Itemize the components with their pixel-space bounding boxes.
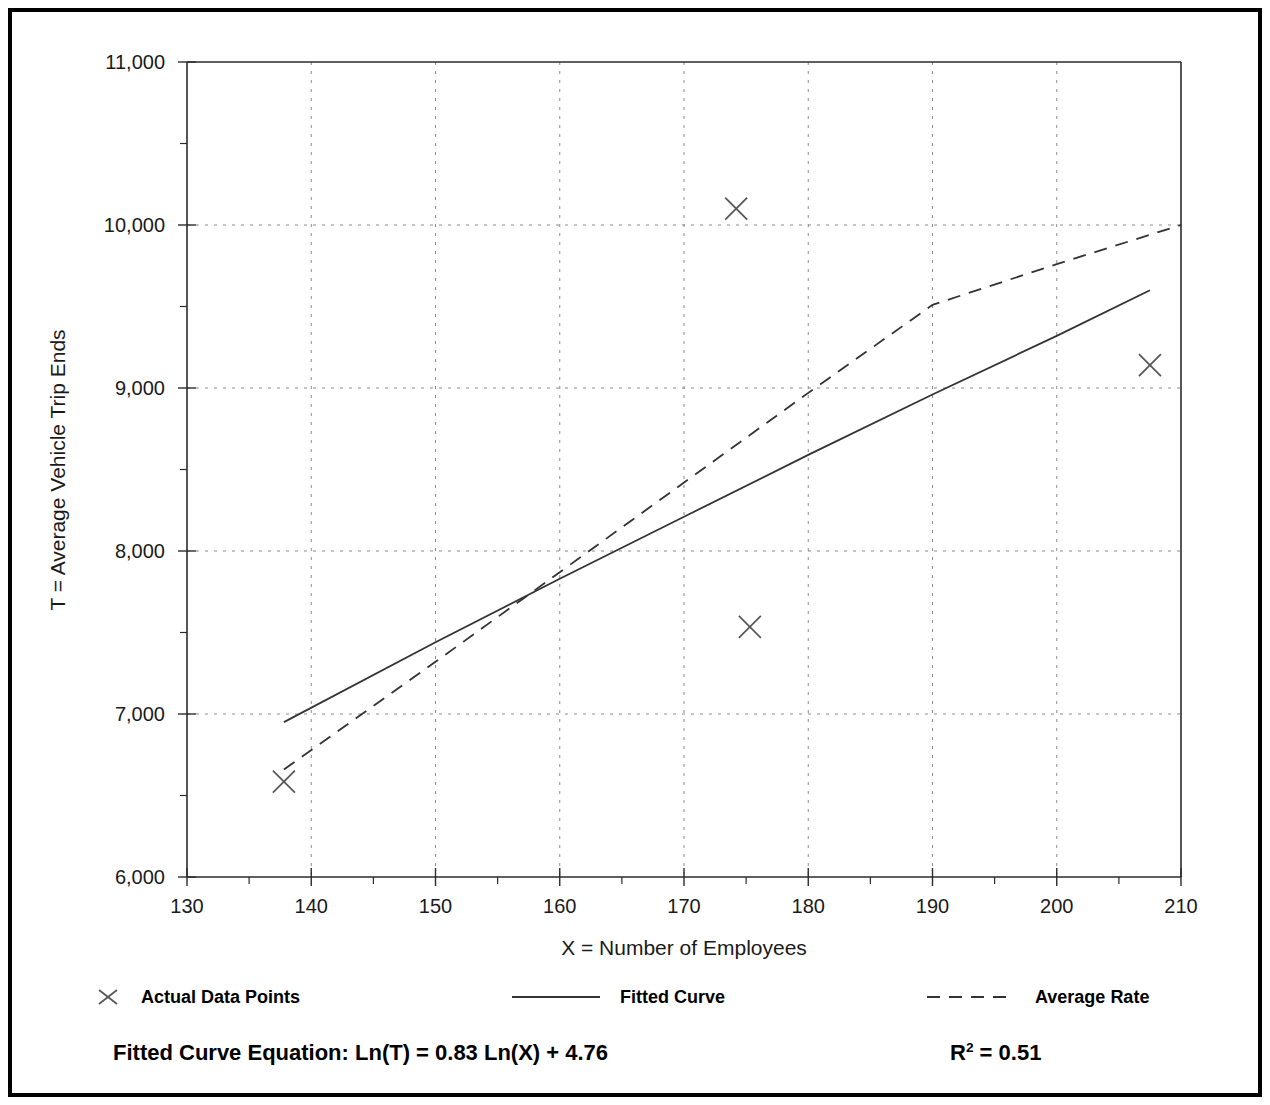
chart-page: 6,0007,0008,0009,00010,00011,00013014015…: [0, 0, 1270, 1105]
legend-marker-x-icon: [95, 987, 123, 1007]
ticks-group: [178, 62, 1181, 886]
r-squared-number: = 0.51: [980, 1040, 1042, 1065]
y-tick-label: 9,000: [115, 377, 165, 399]
plot-area: 6,0007,0008,0009,00010,00011,00013014015…: [0, 0, 1270, 1105]
legend-item-actual: Actual Data Points: [95, 980, 300, 1014]
data-point-markers-group: [273, 198, 1161, 793]
x-tick-label: 180: [792, 895, 825, 917]
legend-label: Fitted Curve: [620, 987, 725, 1008]
r-squared-symbol: R: [950, 1040, 966, 1065]
x-tick-label: 210: [1164, 895, 1197, 917]
legend-label: Average Rate: [1035, 987, 1149, 1008]
tick-labels-group: 6,0007,0008,0009,00010,00011,00013014015…: [104, 51, 1198, 917]
data-point-marker: [725, 198, 747, 220]
series-line-average-rate: [284, 225, 1181, 769]
data-point-marker: [1139, 354, 1161, 376]
data-point-marker: [739, 616, 761, 638]
x-tick-label: 130: [170, 895, 203, 917]
x-axis-title: X = Number of Employees: [187, 936, 1181, 960]
legend-solid-line-icon: [510, 987, 602, 1007]
legend-item-average: Average Rate: [925, 980, 1149, 1014]
chart-footer: Fitted Curve Equation: Ln(T) = 0.83 Ln(X…: [95, 1040, 1185, 1080]
legend-label: Actual Data Points: [141, 987, 300, 1008]
legend-dashed-line-icon: [925, 987, 1017, 1007]
y-tick-label: 10,000: [104, 214, 165, 236]
y-tick-label: 8,000: [115, 540, 165, 562]
y-tick-label: 11,000: [105, 51, 165, 73]
x-tick-label: 170: [667, 895, 700, 917]
data-point-marker: [273, 771, 295, 793]
r-squared-value: R2 = 0.51: [950, 1040, 1041, 1066]
x-tick-label: 190: [916, 895, 949, 917]
x-tick-label: 200: [1040, 895, 1073, 917]
y-axis-title: T = Average Vehicle Trip Ends: [46, 210, 70, 730]
x-tick-label: 160: [543, 895, 576, 917]
fitted-curve-equation: Fitted Curve Equation: Ln(T) = 0.83 Ln(X…: [113, 1040, 608, 1066]
y-tick-label: 7,000: [115, 703, 165, 725]
series-line-fitted-curve: [284, 290, 1150, 722]
chart-legend: Actual Data PointsFitted CurveAverage Ra…: [95, 980, 1185, 1014]
r-squared-exponent: 2: [966, 1040, 974, 1055]
x-tick-label: 150: [419, 895, 452, 917]
series-lines-group: [284, 225, 1181, 769]
y-tick-label: 6,000: [115, 866, 165, 888]
x-tick-label: 140: [295, 895, 328, 917]
gridlines-group: [187, 62, 1181, 877]
legend-item-fitted: Fitted Curve: [510, 980, 725, 1014]
